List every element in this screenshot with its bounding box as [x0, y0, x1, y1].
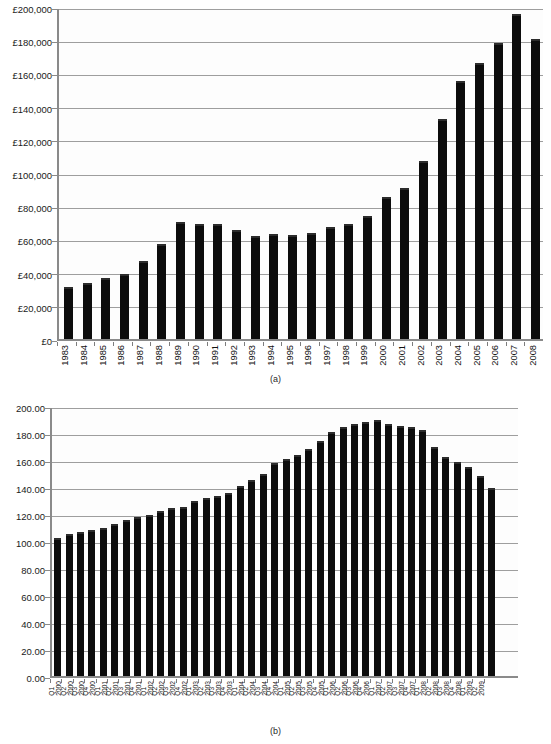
bar	[214, 496, 221, 676]
chart-b-caption: (b)	[0, 726, 551, 736]
bar-top-edge	[180, 507, 187, 509]
bar-top-edge	[66, 534, 73, 536]
bar-top-edge	[157, 511, 164, 513]
bar-top-edge	[248, 480, 255, 482]
bar	[419, 430, 426, 676]
bar-top-edge	[237, 486, 244, 488]
chart-b-y-axis: 0.0020.0040.0060.0080.00100.00120.00140.…	[0, 400, 45, 690]
y-tick-mark	[44, 624, 50, 625]
bar-top-edge	[123, 520, 130, 522]
y-tick-mark	[44, 543, 50, 544]
bar-top-edge	[408, 427, 415, 429]
bar-top-edge	[488, 488, 495, 490]
bar-top-edge	[283, 459, 290, 461]
y-tick-mark	[44, 408, 50, 409]
bar-top-edge	[214, 496, 221, 498]
chart-b-figure: 0.0020.0040.0060.0080.00100.00120.00140.…	[0, 0, 551, 744]
bar	[54, 538, 61, 676]
bar-top-edge	[260, 474, 267, 476]
bar-top-edge	[419, 430, 426, 432]
bar	[191, 501, 198, 676]
bar	[340, 427, 347, 676]
bar	[168, 508, 175, 676]
bar	[351, 424, 358, 676]
bar-top-edge	[431, 447, 438, 449]
bar-top-edge	[54, 538, 61, 540]
bar	[271, 463, 278, 676]
gridline	[52, 408, 518, 409]
bar-top-edge	[225, 493, 232, 495]
bar	[157, 511, 164, 676]
bar	[408, 427, 415, 676]
y-tick-mark	[44, 570, 50, 571]
bar-top-edge	[454, 462, 461, 464]
bar-top-edge	[100, 528, 107, 530]
bar-top-edge	[442, 457, 449, 459]
chart-b-plot-area	[50, 408, 518, 678]
y-axis-tick-label: 200.00	[3, 403, 45, 414]
y-axis-tick-label: 100.00	[3, 538, 45, 549]
y-axis-tick-label: 140.00	[3, 484, 45, 495]
y-axis-tick-label: 20.00	[3, 646, 45, 657]
bar	[260, 474, 267, 677]
bar	[305, 449, 312, 676]
bar-top-edge	[294, 455, 301, 457]
figure-page: £0£20,000£40,000£60,000£80,000£100,000£1…	[0, 0, 551, 744]
x-label-year: 2009	[478, 681, 485, 696]
bar-top-edge	[397, 426, 404, 428]
bar-top-edge	[340, 427, 347, 429]
bar-top-edge	[88, 530, 95, 532]
y-axis-tick-label: 160.00	[3, 457, 45, 468]
bar-top-edge	[328, 432, 335, 434]
bar	[77, 532, 84, 676]
bar	[248, 480, 255, 676]
bar	[111, 524, 118, 676]
bar-top-edge	[77, 532, 84, 534]
y-tick-mark	[44, 516, 50, 517]
bar	[442, 457, 449, 676]
bar-top-edge	[374, 420, 381, 422]
bar-top-edge	[351, 424, 358, 426]
bar-top-edge	[168, 508, 175, 510]
bar-top-edge	[191, 501, 198, 503]
bar-top-edge	[465, 467, 472, 469]
y-axis-tick-label: 60.00	[3, 592, 45, 603]
x-tick-mark	[484, 679, 485, 683]
bar-top-edge	[305, 449, 312, 451]
bar	[477, 476, 484, 676]
bar	[180, 507, 187, 676]
bar	[362, 422, 369, 676]
bar-top-edge	[146, 515, 153, 517]
bar	[294, 455, 301, 676]
y-axis-tick-label: 80.00	[3, 565, 45, 576]
y-tick-mark	[44, 435, 50, 436]
bar-top-edge	[203, 498, 210, 500]
bar	[134, 517, 141, 676]
bar	[488, 488, 495, 676]
y-axis-tick-label: 40.00	[3, 619, 45, 630]
y-tick-mark	[44, 651, 50, 652]
bar	[146, 515, 153, 676]
bar	[317, 441, 324, 676]
y-axis-tick-label: 120.00	[3, 511, 45, 522]
bar	[123, 520, 130, 676]
y-tick-mark	[44, 462, 50, 463]
bar	[283, 459, 290, 676]
bar	[203, 498, 210, 676]
gridline	[52, 435, 518, 436]
bar	[225, 493, 232, 676]
bar	[431, 447, 438, 677]
bar-top-edge	[111, 524, 118, 526]
bar	[374, 420, 381, 676]
bar	[397, 426, 404, 676]
bar-top-edge	[317, 441, 324, 443]
x-axis-tick-label: Q22009	[472, 681, 485, 696]
y-axis-tick-label: 180.00	[3, 430, 45, 441]
bar-top-edge	[477, 476, 484, 478]
y-tick-mark	[44, 597, 50, 598]
bar	[100, 528, 107, 677]
bar	[237, 486, 244, 676]
y-tick-mark	[44, 489, 50, 490]
bar-top-edge	[134, 517, 141, 519]
bar	[385, 424, 392, 676]
